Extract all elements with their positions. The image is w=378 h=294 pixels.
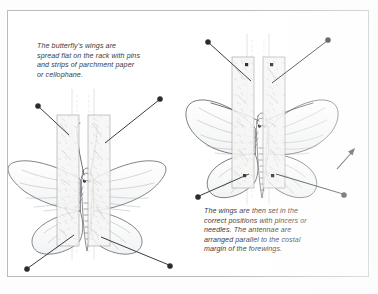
- caption-stage-1: The butterfly's wings are spread flat on…: [37, 42, 172, 80]
- annotation-arrow-up-right: [337, 148, 355, 169]
- paper-strip-right-2: [263, 57, 285, 188]
- strip-pin-head-br: [271, 174, 274, 177]
- illustration-frame: The butterfly's wings are spread flat on…: [7, 10, 369, 277]
- strip-pin-head-tr: [270, 63, 273, 66]
- strip-pin-head-tl: [245, 63, 248, 66]
- caption-stage-2: The wings are then set in the correct po…: [204, 207, 356, 255]
- paper-strip-left-2: [232, 57, 254, 188]
- paper-strip-right: [88, 115, 110, 246]
- right-butterfly-group: [186, 34, 338, 204]
- pin-top-right: [105, 96, 163, 143]
- left-butterfly-group: [8, 89, 166, 259]
- scanned-page: The butterfly's wings are spread flat on…: [0, 0, 378, 294]
